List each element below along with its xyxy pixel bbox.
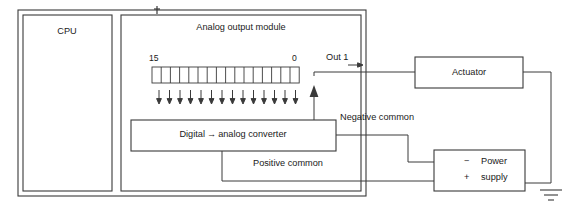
out1-up-arrowhead bbox=[310, 85, 319, 97]
cpu-label: CPU bbox=[57, 27, 76, 36]
actuator-label: Actuator bbox=[452, 68, 486, 77]
converter-label-arrow-icon: → bbox=[205, 129, 218, 139]
out1-terminal-label: Out 1 bbox=[326, 53, 348, 62]
register-lsb-label: 0 bbox=[292, 54, 297, 63]
actuator-to-ground-wire bbox=[523, 72, 551, 183]
converter-label-analog-converter: analog converter bbox=[218, 129, 286, 139]
power-supply-positive-sign: + bbox=[464, 173, 469, 182]
digital-analog-converter-label: Digital→analog converter bbox=[179, 130, 286, 139]
analog-output-module-title: Analog output module bbox=[196, 23, 285, 32]
negative-common-wire bbox=[336, 135, 434, 162]
converter-label-digital: Digital bbox=[179, 129, 205, 139]
power-supply-box bbox=[434, 150, 525, 191]
analog-output-module-box bbox=[121, 15, 361, 191]
earth-ground-icon bbox=[540, 190, 562, 200]
positive-common-label: Positive common bbox=[253, 159, 323, 168]
power-supply-line1-text: Power bbox=[481, 157, 507, 166]
diagram-canvas: CPU Analog output module 15 0 Out 1 Digi… bbox=[0, 0, 577, 208]
negative-common-label: Negative common bbox=[340, 113, 414, 122]
register-to-converter-arrows bbox=[157, 90, 298, 104]
power-supply-negative-sign: − bbox=[464, 157, 469, 166]
register-cells bbox=[152, 67, 299, 83]
register-msb-label: 15 bbox=[149, 54, 159, 63]
cpu-box bbox=[23, 15, 112, 191]
power-supply-line2-text: supply bbox=[481, 173, 508, 182]
